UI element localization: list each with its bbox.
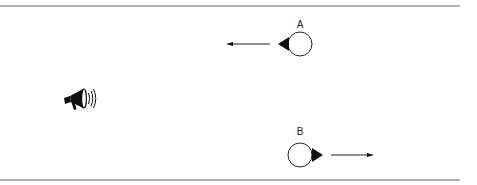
listener-a-motion-arrow [226,42,270,46]
arrow-left-icon [226,42,233,46]
listener-b-label: B [297,126,304,137]
listener-a-nose-icon [278,37,289,51]
listener-b: B [288,126,374,167]
listener-a-circle [288,32,312,56]
listener-b-nose-icon [312,148,323,162]
listener-a-label: A [297,19,304,30]
diagram-canvas: A B [0,0,477,185]
arrow-right-icon [367,153,374,157]
megaphone-icon [64,89,96,110]
listener-b-motion-arrow [331,153,374,157]
listener-a: A [226,19,312,56]
listener-b-circle [288,143,312,167]
